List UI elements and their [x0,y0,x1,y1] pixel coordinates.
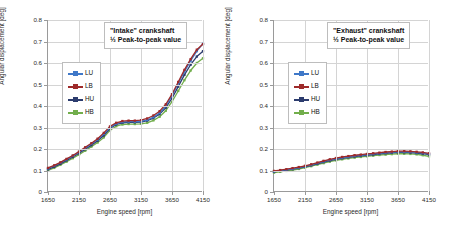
chart-panel-exhaust: 00.10.20.30.40.50.60.70.8165021502650315… [226,0,451,238]
legend-item-hb[interactable]: HB [294,106,320,119]
data-point-marker [59,161,61,163]
y-axis-tick-label: 0.5 [33,81,42,87]
x-axis-tick [336,191,337,195]
legend-item-hu[interactable]: HU [294,93,320,106]
data-point-marker [372,152,374,154]
x-axis-tick [172,191,173,195]
y-axis-tick-label: 0.6 [33,60,42,66]
legend-label: HU [311,96,320,102]
y-axis-tick [44,63,48,64]
y-axis-tick-label: 0.4 [33,103,42,109]
legend-label: HU [85,96,94,102]
y-axis-tick [270,171,274,172]
y-axis-tick-label: 0.3 [259,124,268,130]
data-point-marker [177,81,179,83]
data-point-marker [189,69,191,71]
data-point-marker [152,119,154,121]
gridline-horizontal [274,128,428,129]
legend-item-lu[interactable]: LU [68,67,94,80]
legend-swatch-lu-icon [68,69,83,78]
data-point-marker [183,69,185,71]
legend-label: LB [311,83,319,89]
legend-label: HB [85,109,94,115]
chart-title-intake-line2: ½ Peak-to-peak value [110,35,181,44]
data-point-marker [403,150,405,152]
legend-swatch-hb-icon [294,108,309,117]
legend-swatch-lu-icon [294,69,309,78]
data-point-marker [115,122,117,124]
data-point-marker [183,79,185,81]
y-axis-tick-label: 0.4 [259,103,268,109]
legend-swatch-lb-icon [68,82,83,91]
data-point-marker [146,117,148,119]
y-axis-tick [44,149,48,150]
x-axis-tick-label: 3150 [134,197,148,203]
y-axis-tick-label: 0.1 [259,167,268,173]
data-point-marker [310,163,312,165]
data-point-marker [196,49,198,51]
data-point-marker [96,138,98,140]
series-line-lu-exhaust [274,152,429,172]
x-axis-tick [48,191,49,195]
y-axis-tick [44,128,48,129]
legend-item-lb[interactable]: LB [68,80,94,93]
data-point-marker [322,160,324,162]
data-point-marker [329,158,331,160]
data-point-marker [152,114,154,116]
gridline-horizontal [48,171,202,172]
legend-item-hb[interactable]: HB [68,106,94,119]
y-axis-tick [44,171,48,172]
x-axis-tick [398,191,399,195]
legend-item-lu[interactable]: LU [294,67,320,80]
gridline-horizontal [48,128,202,129]
x-axis-tick-label: 4150 [196,197,210,203]
y-axis-tick-label: 0.1 [33,167,42,173]
chart-panel-intake: 00.10.20.30.40.50.60.70.8165021502650315… [0,0,225,238]
data-point-marker [291,167,293,169]
y-axis-title-exhaust: Angular displacement [deg] [224,0,231,106]
legend-label: LU [85,70,93,76]
data-point-marker [422,151,424,153]
x-axis-tick [305,191,306,195]
y-axis-tick [44,20,48,21]
data-point-marker [341,156,343,158]
y-axis-tick-label: 0 [39,189,42,195]
gridline-horizontal [48,20,202,21]
data-point-marker [146,122,148,124]
legend-item-lb[interactable]: LB [294,80,320,93]
data-point-marker [47,167,49,169]
y-axis-tick [270,106,274,107]
y-axis-tick-label: 0.8 [259,17,268,23]
data-point-marker [165,110,167,112]
data-point-marker [353,154,355,156]
x-axis-tick [274,191,275,195]
y-axis-tick [270,63,274,64]
gridline-horizontal [274,20,428,21]
y-axis-tick-label: 0.2 [259,146,268,152]
x-axis-tick-label: 2650 [329,197,343,203]
data-point-marker [196,55,198,57]
data-point-marker [347,155,349,157]
figure-canvas: 00.10.20.30.40.50.60.70.8165021502650315… [0,0,451,238]
x-axis-tick [203,191,204,195]
y-axis-tick [44,42,48,43]
data-point-marker [53,164,55,166]
data-point-marker [415,151,417,153]
x-axis-tick-label: 1650 [41,197,55,203]
chart-title-intake: "Intake" crankshaft ½ Peak-to-peak value [104,22,187,49]
y-axis-tick-label: 0.8 [33,17,42,23]
data-point-marker [177,90,179,92]
data-point-marker [158,110,160,112]
chart-title-exhaust-line1: "Exhaust" crankshaft [333,27,404,34]
y-axis-tick-label: 0.7 [33,38,42,44]
y-axis-tick [270,85,274,86]
y-axis-tick-label: 0.7 [259,38,268,44]
data-point-marker [316,161,318,163]
legend-swatch-hu-icon [294,95,309,104]
legend-swatch-lb-icon [294,82,309,91]
y-axis-tick [270,42,274,43]
legend-item-hu[interactable]: HU [68,93,94,106]
legend-label: HB [311,109,320,115]
x-axis-tick-label: 3650 [165,197,179,203]
y-axis-title-intake: Angular displacement [deg] [0,0,5,106]
